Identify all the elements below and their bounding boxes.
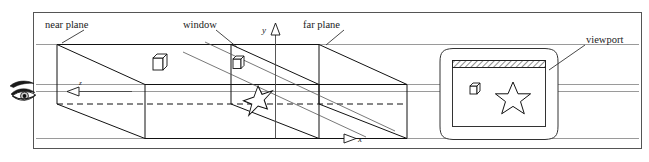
near-plane-bottom-diag: [57, 104, 145, 139]
figure-container: y x z: [0, 0, 649, 162]
diagram-canvas: y x z: [0, 0, 649, 162]
z-axis: z: [67, 79, 132, 96]
x-axis-arrowhead: [344, 134, 356, 143]
projection-ray-2: [205, 42, 395, 131]
cube-icon: [233, 56, 244, 69]
leader-window: [216, 30, 238, 48]
hatched-titlebar[interactable]: [453, 61, 546, 68]
z-axis-label: z: [78, 79, 82, 87]
label-window: window: [183, 19, 217, 30]
label-far-plane: far plane: [303, 19, 340, 30]
y-axis-arrowhead: [271, 23, 280, 35]
y-axis-label: y: [261, 25, 266, 35]
cube-front-face: [153, 58, 163, 70]
cube-icon: [153, 54, 167, 70]
label-viewport: viewport: [586, 34, 623, 45]
x-axis-label: x: [357, 134, 362, 144]
near-plane-top-diag: [57, 45, 145, 85]
star-icon: [244, 81, 273, 117]
leader-near-plane: [62, 30, 84, 43]
cube-front-face: [233, 59, 241, 69]
far-plane-top-diag: [319, 45, 407, 85]
z-axis-arrowhead: [67, 87, 79, 96]
cube-icon: [470, 83, 480, 94]
leader-far-plane: [326, 30, 344, 45]
y-axis: y: [261, 23, 280, 139]
pupil-shape: [23, 94, 27, 98]
label-near-plane: near plane: [45, 19, 89, 30]
cube-front-face: [470, 86, 477, 94]
eyebrow-shape: [10, 81, 34, 87]
star-scene-shape: [244, 81, 273, 117]
eye-icon: [10, 81, 36, 100]
x-axis: x: [344, 134, 362, 144]
monitor-icon: [440, 49, 558, 140]
projection-rays: [183, 42, 395, 137]
